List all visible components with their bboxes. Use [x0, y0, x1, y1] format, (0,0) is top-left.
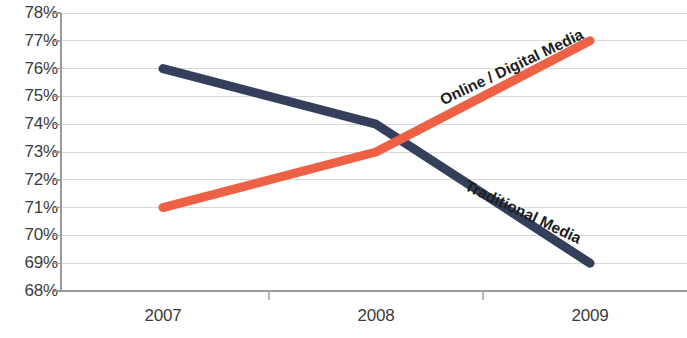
- y-gridlines: [61, 13, 687, 263]
- x-axis-tick-label: 2007: [103, 306, 223, 326]
- series-line-traditional-media: [163, 69, 590, 264]
- y-axis-ticks: [54, 13, 61, 291]
- plot-area: [0, 0, 687, 338]
- x-axis-tick-label: 2009: [530, 306, 650, 326]
- line-chart: 78% 77% 76% 75% 74% 73% 72% 71% 70% 69% …: [0, 0, 687, 338]
- x-axis-tick-label: 2008: [316, 306, 436, 326]
- x-axis-ticks: [269, 291, 483, 300]
